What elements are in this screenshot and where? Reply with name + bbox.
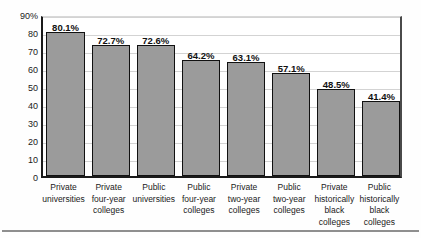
x-axis-category-label: Privatefour-yearcolleges [83, 182, 134, 217]
bar [272, 73, 310, 176]
bar-value-label: 57.1% [266, 64, 316, 74]
bar [317, 89, 355, 176]
x-axis-category-line: four-year [83, 194, 134, 206]
x-axis-category-label: Privatehistoricallyblackcolleges [309, 182, 360, 228]
y-axis-tick-label: 90% [2, 12, 38, 21]
bar-value-label: 48.5% [311, 80, 361, 90]
x-axis-category-line: Public [128, 182, 179, 194]
x-axis-category-line: colleges [83, 205, 134, 217]
y-axis-tick-label: 30 [2, 120, 38, 129]
x-axis-category-line: Private [83, 182, 134, 194]
bar-value-label: 41.4% [356, 92, 406, 102]
x-axis-category-label: Privateuniversities [38, 182, 89, 205]
x-axis-category-line: colleges [354, 217, 405, 229]
y-axis-tick-label: 60 [2, 66, 38, 75]
bar-value-label: 80.1% [41, 23, 91, 33]
x-axis-category-line: historically [309, 194, 360, 206]
bar [182, 60, 220, 176]
y-axis-tick-label: 70 [2, 48, 38, 57]
y-axis-tick-label: 50 [2, 84, 38, 93]
bar [46, 32, 84, 176]
y-axis-tick-label: 40 [2, 102, 38, 111]
x-axis-category-line: Private [38, 182, 89, 194]
bar-value-label: 72.6% [131, 36, 181, 46]
bar-series: 80.1%72.7%72.6%64.2%63.1%57.1%48.5%41.4% [43, 17, 400, 176]
bar [137, 45, 175, 176]
x-axis-category-line: colleges [309, 217, 360, 229]
x-axis-category-line: black [309, 205, 360, 217]
x-axis-category-line: Private [219, 182, 270, 194]
x-axis-category-line: black [354, 205, 405, 217]
x-axis-category-line: Public [264, 182, 315, 194]
bar-chart: 90%80706050403020100 80.1%72.7%72.6%64.2… [0, 0, 421, 238]
x-axis-category-line: Private [309, 182, 360, 194]
y-axis-tick-label: 20 [2, 138, 38, 147]
x-axis-category-line: colleges [219, 205, 270, 217]
x-axis-category-line: universities [128, 194, 179, 206]
bar-value-label: 64.2% [176, 51, 226, 61]
x-axis: PrivateuniversitiesPrivatefour-yearcolle… [41, 182, 402, 230]
bar [362, 101, 400, 176]
x-axis-category-label: Publicuniversities [128, 182, 179, 205]
x-axis-category-line: two-year [264, 194, 315, 206]
bar [227, 62, 265, 176]
x-axis-category-line: universities [38, 194, 89, 206]
bar [92, 45, 130, 176]
x-axis-category-line: Public [354, 182, 405, 194]
x-axis-category-line: colleges [264, 205, 315, 217]
x-axis-category-line: Public [173, 182, 224, 194]
y-axis-tick-label: 80 [2, 30, 38, 39]
x-axis-category-label: Publichistoricallyblackcolleges [354, 182, 405, 228]
bar-value-label: 72.7% [86, 36, 136, 46]
x-axis-category-line: historically [354, 194, 405, 206]
x-axis-category-line: colleges [173, 205, 224, 217]
x-axis-category-label: Publictwo-yearcolleges [264, 182, 315, 217]
x-axis-category-line: two-year [219, 194, 270, 206]
bottom-divider [2, 230, 419, 232]
bar-value-label: 63.1% [221, 53, 271, 63]
y-axis-tick-label: 10 [2, 156, 38, 165]
x-axis-category-label: Publicfour-yearcolleges [173, 182, 224, 217]
plot-area: 80.1%72.7%72.6%64.2%63.1%57.1%48.5%41.4% [41, 16, 402, 178]
y-axis-tick-label: 0 [2, 174, 38, 183]
x-axis-category-line: four-year [173, 194, 224, 206]
y-axis: 90%80706050403020100 [0, 0, 38, 238]
x-axis-category-label: Privatetwo-yearcolleges [219, 182, 270, 217]
